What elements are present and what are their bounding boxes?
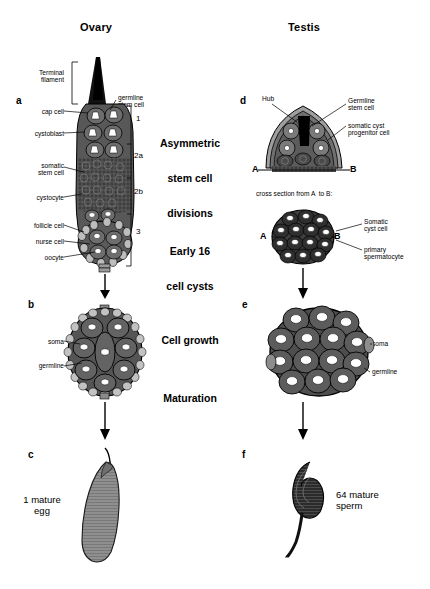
- follicle-illustration: [64, 305, 146, 399]
- arrow-e-to-f: [298, 402, 308, 440]
- grown-cyst-illustration: [266, 306, 374, 396]
- figure-illustrations: [0, 0, 430, 589]
- mature-egg-illustration: [82, 448, 119, 562]
- germarium-illustration: [76, 57, 134, 272]
- arrow-a-to-b: [100, 274, 110, 299]
- testis-apex-illustration: [258, 106, 350, 172]
- arrow-d-to-e: [298, 268, 308, 299]
- figure-canvas: Ovary Testis a b c d e f Asymmetric stem…: [0, 0, 430, 589]
- arrow-b-to-c: [100, 402, 110, 440]
- terminal-filament-bracket: [72, 62, 78, 104]
- cross-section-illustration: [272, 210, 334, 264]
- mature-sperm-illustration: [286, 462, 324, 557]
